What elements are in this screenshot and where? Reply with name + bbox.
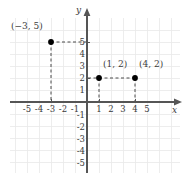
x-tick-label: -5 (23, 105, 31, 114)
y-axis-label: y (76, 6, 81, 15)
x-tick-label: -2 (59, 105, 67, 114)
y-tick-label: -4 (77, 147, 85, 156)
guide-lines (51, 42, 135, 101)
x-tick-label: -3 (47, 105, 55, 114)
y-tick-label: -1 (77, 111, 85, 120)
y-tick-label: 4 (80, 50, 85, 59)
y-tick-label: -3 (77, 135, 85, 144)
point-label-1-2: (1, 2) (103, 60, 127, 69)
data-point (96, 75, 102, 81)
x-tick-label: 4 (132, 105, 137, 114)
data-point (48, 39, 54, 45)
axis-lines (10, 13, 177, 173)
coordinate-plane-figure: -5 -4 -3 -2 -1 1 2 3 4 5 5 4 3 2 1 -1 -2… (0, 0, 188, 180)
point-label-neg3-5: (−3, 5) (11, 22, 43, 31)
y-tick-label: -5 (77, 159, 85, 168)
x-tick-label: 3 (120, 105, 125, 114)
x-axis-label: x (172, 106, 177, 115)
axis-arrowheads (84, 8, 182, 105)
y-axis-arrowhead (84, 8, 91, 16)
y-tick-label: 2 (80, 74, 85, 83)
x-tick-label: 1 (96, 105, 101, 114)
tick-marks (51, 42, 135, 102)
x-tick-label: 2 (108, 105, 113, 114)
y-tick-label: 1 (80, 86, 85, 95)
data-point (132, 75, 138, 81)
y-tick-label: -2 (77, 123, 85, 132)
x-tick-label: 5 (144, 105, 149, 114)
y-tick-label: 3 (80, 62, 85, 71)
grid-lines (10, 18, 180, 173)
x-tick-label: -4 (35, 105, 43, 114)
point-label-4-2: (4, 2) (139, 60, 163, 69)
y-tick-label: 5 (80, 38, 85, 47)
